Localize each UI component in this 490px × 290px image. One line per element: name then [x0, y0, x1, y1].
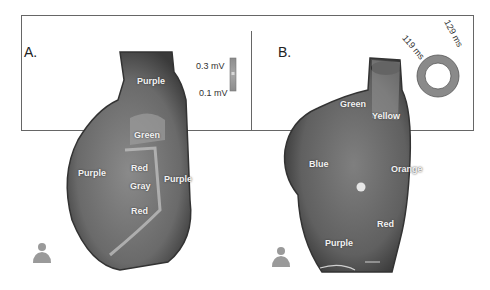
region-label-red-bottom: Red: [131, 206, 148, 216]
scale-max-label: 0.3 mV: [196, 61, 225, 71]
scale-min-label: 0.1 mV: [199, 88, 228, 98]
panel-label-a: A.: [24, 44, 37, 60]
region-label-orange: Orange: [391, 164, 423, 174]
region-label-gray: Gray: [130, 181, 151, 191]
region-label-yellow: Yellow: [372, 111, 400, 121]
region-label-green-b: Green: [340, 99, 366, 109]
region-label-red-b: Red: [377, 219, 394, 229]
region-label-blue: Blue: [309, 159, 329, 169]
timing-ring: [421, 59, 455, 93]
region-label-purple-right: Purple: [164, 174, 192, 184]
torso-orientation-icon: [272, 247, 290, 267]
torso-orientation-icon: [33, 243, 51, 263]
catheter-marker: [357, 183, 366, 192]
region-label-red-top: Red: [131, 163, 148, 173]
panel-a-heart-map: [67, 52, 191, 270]
region-label-purple-left: Purple: [78, 168, 106, 178]
region-label-purple-top: Purple: [137, 76, 165, 86]
panel-label-b: B.: [278, 44, 291, 60]
region-label-purple-b: Purple: [325, 238, 353, 248]
region-label-green: Green: [134, 130, 160, 140]
